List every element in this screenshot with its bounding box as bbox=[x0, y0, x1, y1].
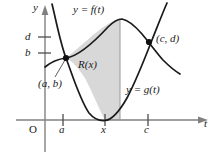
point-ab-label: (a, b) bbox=[38, 78, 62, 89]
y-tick-label-d: d bbox=[25, 31, 31, 42]
point-cd-label: (c, d) bbox=[156, 33, 179, 44]
point-ab-dot bbox=[63, 55, 69, 61]
leader-line-ab bbox=[55, 60, 65, 77]
region-label: R(x) bbox=[78, 59, 97, 70]
y-axis-arrow-icon bbox=[42, 5, 49, 15]
point-cd-dot bbox=[146, 39, 152, 45]
origin-label: O bbox=[29, 124, 37, 135]
y-axis-label: y bbox=[33, 2, 38, 13]
curve-g-label: y = g(t) bbox=[126, 84, 160, 95]
x-axis-label: t bbox=[204, 118, 207, 129]
y-tick-label-b: b bbox=[25, 47, 31, 58]
x-tick-label-x: x bbox=[101, 124, 106, 135]
curve-f-label: y = f(t) bbox=[73, 4, 104, 15]
calculus-figure: y t O d b a x c y = f(t) y = g(t) R(x) (… bbox=[0, 0, 216, 158]
x-tick-label-c: c bbox=[144, 124, 149, 135]
x-tick-label-a: a bbox=[59, 124, 65, 135]
